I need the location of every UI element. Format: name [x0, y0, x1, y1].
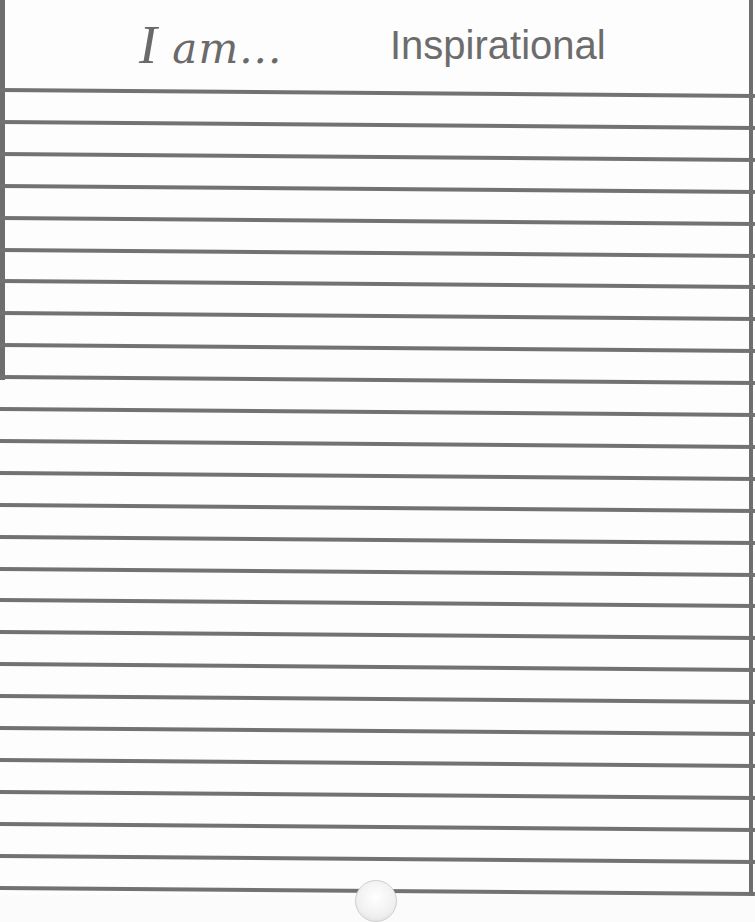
- ruled-line: [0, 279, 755, 289]
- ruled-line: [0, 216, 755, 226]
- ruled-line: [0, 567, 755, 577]
- ruled-line: [0, 184, 755, 194]
- ruled-line: [0, 88, 755, 98]
- ruled-line: [0, 662, 755, 672]
- ruled-line: [0, 535, 755, 545]
- ruled-line: [0, 120, 755, 130]
- ruled-line: [0, 311, 755, 321]
- ruled-line: [0, 854, 755, 864]
- ruled-line: [0, 758, 755, 768]
- ruled-line: [0, 726, 755, 736]
- ruled-line: [0, 790, 755, 800]
- ruled-line: [0, 694, 755, 704]
- binder-hole: [355, 880, 397, 922]
- ruled-line: [0, 407, 755, 417]
- ruled-line: [0, 152, 755, 162]
- ruled-line: [0, 503, 755, 513]
- ruled-line: [0, 343, 755, 353]
- ruled-line: [0, 822, 755, 832]
- ruled-line: [0, 598, 755, 608]
- ruled-line: [0, 375, 755, 385]
- ruled-line: [0, 439, 755, 449]
- ruled-line: [0, 248, 755, 258]
- ruled-line: [0, 630, 755, 640]
- ruled-line: [0, 471, 755, 481]
